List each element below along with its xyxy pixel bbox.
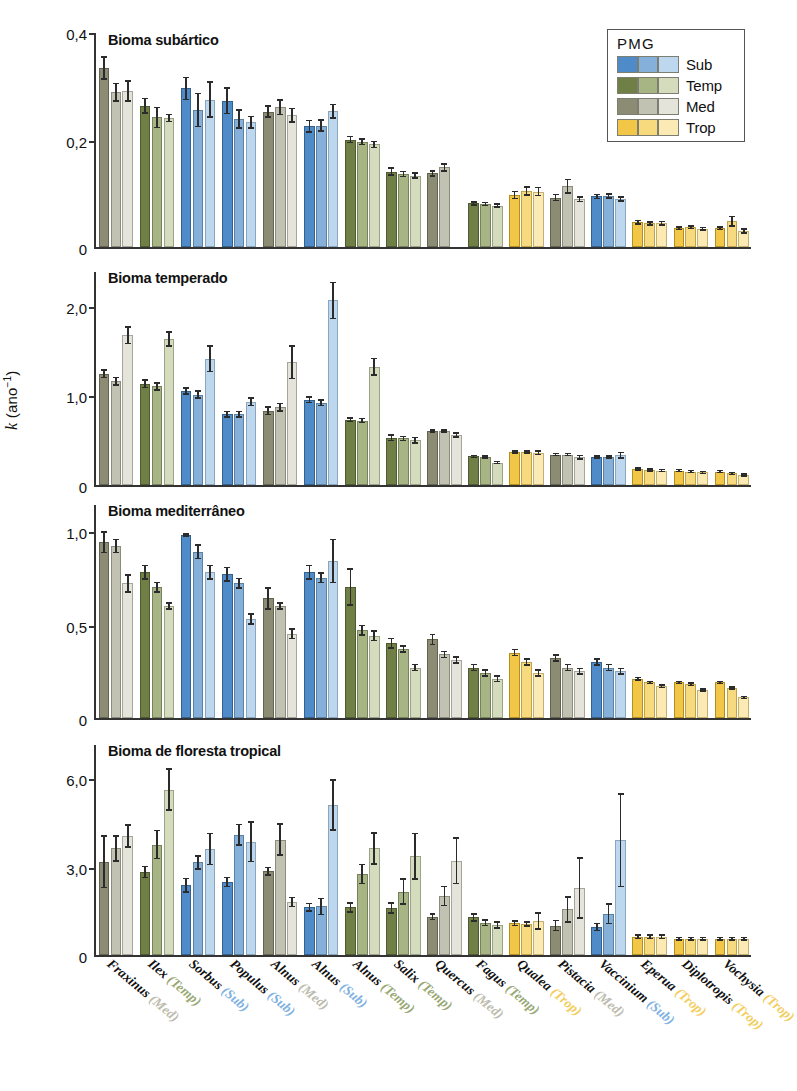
bar[interactable] <box>357 630 368 718</box>
bar[interactable] <box>164 339 175 485</box>
bar[interactable] <box>193 552 204 718</box>
bar[interactable] <box>674 471 685 485</box>
bar[interactable] <box>615 455 626 485</box>
bar[interactable] <box>574 457 585 485</box>
bar[interactable] <box>316 403 327 485</box>
bar[interactable] <box>275 840 286 955</box>
bar[interactable] <box>715 472 726 485</box>
bar[interactable] <box>715 228 726 247</box>
bar[interactable] <box>357 874 368 955</box>
bar[interactable] <box>427 173 438 247</box>
bar[interactable] <box>468 203 479 247</box>
bar[interactable] <box>697 939 708 955</box>
bar[interactable] <box>304 400 315 485</box>
bar[interactable] <box>369 636 380 718</box>
bar[interactable] <box>632 937 643 955</box>
bar[interactable] <box>193 862 204 955</box>
bar[interactable] <box>122 91 133 247</box>
bar[interactable] <box>345 140 356 248</box>
bar[interactable] <box>140 106 151 247</box>
bar[interactable] <box>727 688 738 718</box>
bar[interactable] <box>140 872 151 955</box>
bar[interactable] <box>369 144 380 247</box>
bar[interactable] <box>715 939 726 955</box>
bar[interactable] <box>632 222 643 247</box>
bar[interactable] <box>164 790 175 955</box>
bar[interactable] <box>562 455 573 485</box>
bar[interactable] <box>181 885 192 955</box>
bar[interactable] <box>275 107 286 247</box>
bar[interactable] <box>533 673 544 718</box>
bar[interactable] <box>222 101 233 247</box>
bar[interactable] <box>369 367 380 485</box>
bar[interactable] <box>111 381 122 485</box>
bar[interactable] <box>122 836 133 955</box>
bar[interactable] <box>111 92 122 247</box>
bar[interactable] <box>152 587 163 718</box>
bar[interactable] <box>205 572 216 718</box>
bar[interactable] <box>222 574 233 718</box>
bar[interactable] <box>685 227 696 247</box>
bar[interactable] <box>345 420 356 485</box>
bar[interactable] <box>603 196 614 247</box>
bar[interactable] <box>697 472 708 485</box>
bar[interactable] <box>410 176 421 247</box>
bar[interactable] <box>550 455 561 485</box>
bar[interactable] <box>287 902 298 955</box>
bar[interactable] <box>181 391 192 485</box>
bar[interactable] <box>615 199 626 247</box>
bar[interactable] <box>480 673 491 718</box>
bar[interactable] <box>287 634 298 718</box>
bar[interactable] <box>386 438 397 485</box>
bar[interactable] <box>439 431 450 485</box>
bar[interactable] <box>480 457 491 485</box>
bar[interactable] <box>246 619 257 718</box>
bar[interactable] <box>316 578 327 718</box>
bar[interactable] <box>275 606 286 718</box>
bar[interactable] <box>193 395 204 485</box>
bar[interactable] <box>304 126 315 247</box>
bar[interactable] <box>738 939 749 955</box>
bar[interactable] <box>562 668 573 718</box>
bar[interactable] <box>550 198 561 247</box>
bar[interactable] <box>427 917 438 955</box>
bar[interactable] <box>492 206 503 247</box>
bar[interactable] <box>533 192 544 247</box>
bar[interactable] <box>345 587 356 718</box>
bar[interactable] <box>99 542 110 718</box>
bar[interactable] <box>152 845 163 955</box>
legend-item-temp[interactable]: Temp <box>617 75 737 95</box>
bar[interactable] <box>656 686 667 718</box>
bar[interactable] <box>99 374 110 485</box>
bar[interactable] <box>164 118 175 247</box>
bar[interactable] <box>205 359 216 485</box>
bar[interactable] <box>398 649 409 718</box>
bar[interactable] <box>492 679 503 718</box>
bar[interactable] <box>451 660 462 718</box>
bar[interactable] <box>439 654 450 718</box>
bar[interactable] <box>234 119 245 247</box>
bar[interactable] <box>685 472 696 485</box>
bar[interactable] <box>644 470 655 485</box>
bar[interactable] <box>164 606 175 718</box>
bar[interactable] <box>451 435 462 485</box>
legend-item-trop[interactable]: Trop <box>617 117 737 137</box>
bar[interactable] <box>152 117 163 247</box>
bar[interactable] <box>328 300 339 485</box>
bar[interactable] <box>410 668 421 718</box>
bar[interactable] <box>603 457 614 485</box>
bar[interactable] <box>304 907 315 955</box>
bar[interactable] <box>591 662 602 718</box>
bar[interactable] <box>591 457 602 485</box>
bar[interactable] <box>509 923 520 955</box>
bar[interactable] <box>398 438 409 485</box>
bar[interactable] <box>386 643 397 718</box>
bar[interactable] <box>427 431 438 485</box>
bar[interactable] <box>386 172 397 247</box>
legend-item-med[interactable]: Med <box>617 96 737 116</box>
bar[interactable] <box>509 653 520 718</box>
bar[interactable] <box>656 223 667 247</box>
bar[interactable] <box>468 456 479 485</box>
bar[interactable] <box>674 682 685 718</box>
bar[interactable] <box>222 882 233 955</box>
